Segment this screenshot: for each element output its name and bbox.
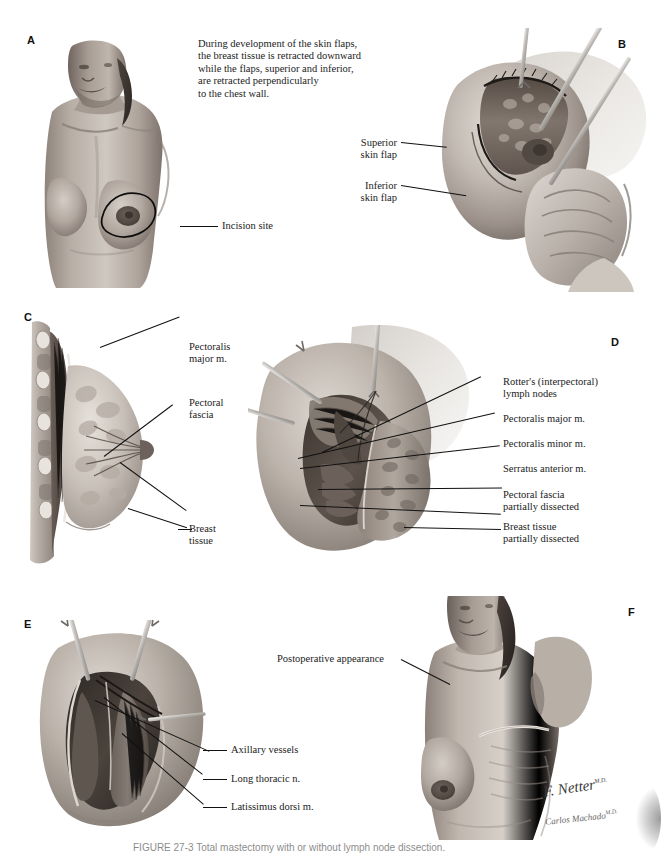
label-pectoral-fascia-d: Pectoral fascia partially dissected <box>503 489 579 512</box>
panel-b-illustration <box>418 28 658 293</box>
figure-caption: FIGURE 27-3 Total mastectomy with or wit… <box>133 842 445 853</box>
label-inferior-skin-flap: Inferior skin flap <box>354 180 397 203</box>
panel-letter-d: D <box>611 336 619 348</box>
leader-latissimus-dorsi-stub <box>203 807 227 808</box>
panel-a-intro-text: During development of the skin flaps, th… <box>198 38 383 100</box>
label-pectoralis-major-d: Pectoralis major m. <box>503 413 585 425</box>
signature-netter-suffix: M.D. <box>594 777 607 785</box>
label-pectoralis-major-c: Pectoralis major m. <box>189 341 230 364</box>
label-axillary-vessels: Axillary vessels <box>231 744 298 756</box>
panel-d-illustration <box>248 325 474 570</box>
leader-incision-site <box>180 226 218 227</box>
panel-f-illustration <box>395 596 595 846</box>
label-pectoral-fascia-c: Pectoral fascia <box>189 397 223 420</box>
panel-c-illustration <box>24 318 184 568</box>
label-incision-site: Incision site <box>222 220 273 232</box>
panel-a-illustration <box>22 40 192 290</box>
label-long-thoracic-nerve: Long thoracic n. <box>231 773 300 785</box>
label-pectoralis-minor-d: Pectoralis minor m. <box>503 438 586 450</box>
label-rotters-nodes: Rotter's (interpectoral) lymph nodes <box>503 376 598 399</box>
leader-long-thoracic-nerve-stub <box>203 779 227 780</box>
label-serratus-anterior-d: Serratus anterior m. <box>503 463 586 475</box>
label-breast-tissue-d: Breast tissue partially dissected <box>503 521 579 544</box>
signature-machado-suffix: M.D. <box>605 808 618 815</box>
panel-letter-f: F <box>628 606 635 618</box>
label-breast-tissue-c: Breast tissue <box>189 523 216 546</box>
page-edge-artifact <box>636 786 661 851</box>
label-postoperative-appearance: Postoperative appearance <box>277 653 384 665</box>
leader-axillary-vessels-stub <box>203 750 227 751</box>
label-superior-skin-flap: Superior skin flap <box>349 137 397 160</box>
label-latissimus-dorsi: Latissimus dorsi m. <box>231 801 314 813</box>
